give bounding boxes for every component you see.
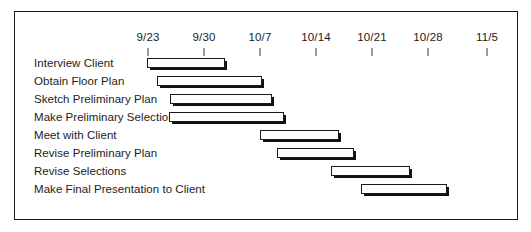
task-label: Make Preliminary Selections <box>34 111 180 123</box>
task-bar[interactable] <box>277 148 354 158</box>
task-bar[interactable] <box>361 184 447 194</box>
task-bar[interactable] <box>170 94 272 104</box>
task-bar[interactable] <box>147 58 225 68</box>
task-label: Revise Preliminary Plan <box>34 147 157 159</box>
task-label: Sketch Preliminary Plan <box>34 93 157 105</box>
task-row[interactable]: Meet with Client <box>15 126 517 144</box>
task-label: Revise Selections <box>34 165 126 177</box>
task-row[interactable]: Revise Preliminary Plan <box>15 144 517 162</box>
axis-tick-label-9-30: 9/30 <box>193 31 216 43</box>
task-bar[interactable] <box>331 166 410 176</box>
task-row[interactable]: Obtain Floor Plan <box>15 72 517 90</box>
task-row[interactable]: Sketch Preliminary Plan <box>15 90 517 108</box>
task-bar[interactable] <box>169 112 284 122</box>
task-label: Meet with Client <box>34 129 117 141</box>
axis-tick-label-10-14: 10/14 <box>301 31 330 43</box>
axis-tick-label-10-7: 10/7 <box>249 31 272 43</box>
task-bar[interactable] <box>157 76 262 86</box>
gantt-chart-frame: 9/239/3010/710/1410/2110/2811/5 Intervie… <box>14 11 518 220</box>
axis-tick-label-10-28: 10/28 <box>413 31 442 43</box>
task-bar[interactable] <box>260 130 339 140</box>
task-row[interactable]: Revise Selections <box>15 162 517 180</box>
task-row[interactable]: Interview Client <box>15 54 517 72</box>
axis-tick-label-11-5: 11/5 <box>476 31 498 43</box>
task-label: Make Final Presentation to Client <box>34 183 205 195</box>
task-row[interactable]: Make Preliminary Selections <box>15 108 517 126</box>
task-label: Interview Client <box>34 57 113 69</box>
axis-tick-label-10-21: 10/21 <box>357 31 386 43</box>
task-label: Obtain Floor Plan <box>34 75 124 87</box>
axis-tick-label-9-23: 9/23 <box>137 31 160 43</box>
task-row[interactable]: Make Final Presentation to Client <box>15 180 517 198</box>
